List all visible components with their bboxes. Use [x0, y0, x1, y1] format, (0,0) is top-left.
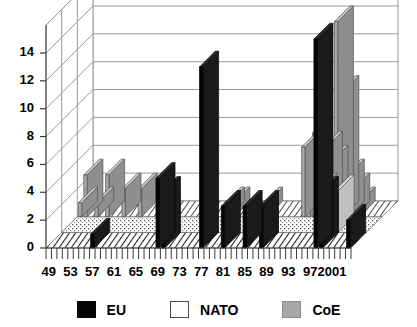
y-axis-tick-0: 0	[10, 241, 34, 253]
chart-canvas	[0, 0, 417, 290]
chart-container: 02468101214 4953576165697377818589939720…	[0, 0, 417, 327]
y-axis-tick-14: 14	[10, 46, 34, 58]
legend-label-nato: NATO	[200, 302, 238, 318]
legend-swatch-coe-icon	[282, 301, 301, 318]
legend-swatch-eu-icon	[77, 301, 96, 318]
legend-item-coe: CoE	[282, 301, 340, 318]
legend-item-nato: NATO	[170, 301, 238, 318]
y-axis-tick-4: 4	[10, 185, 34, 197]
chart-legend: EU NATO CoE	[0, 292, 417, 327]
y-axis-tick-12: 12	[10, 74, 34, 86]
y-axis-tick-10: 10	[10, 102, 34, 114]
y-axis-tick-8: 8	[10, 130, 34, 142]
legend-label-coe: CoE	[312, 302, 340, 318]
plot-area	[0, 0, 417, 290]
y-axis-tick-2: 2	[10, 213, 34, 225]
legend-label-eu: EU	[107, 302, 126, 318]
legend-swatch-nato-icon	[170, 301, 189, 318]
legend-item-eu: EU	[77, 301, 126, 318]
y-axis-tick-6: 6	[10, 157, 34, 169]
x-axis-tick-2001: 2001	[302, 265, 362, 278]
